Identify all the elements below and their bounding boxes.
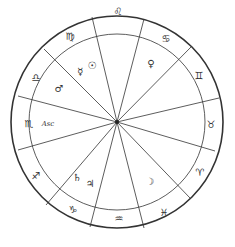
sign-leo-icon: ♌ bbox=[114, 6, 123, 17]
zodiac-wheel: ♌♋♊♉♈♓♒♑♐♏♎♍ ☉☿♂♀♄♃☽ Asc bbox=[0, 0, 235, 247]
planet-saturn-icon: ♄ bbox=[73, 172, 82, 183]
sign-gemini-icon: ♊ bbox=[195, 70, 204, 81]
sign-taurus-icon: ♉ bbox=[207, 119, 216, 130]
sign-sagittarius-icon: ♐ bbox=[32, 170, 41, 181]
planet-mercury-icon: ☿ bbox=[77, 66, 83, 77]
sign-aquarius-icon: ♒ bbox=[115, 213, 124, 224]
planet-venus-icon: ♀ bbox=[147, 58, 154, 69]
sign-pisces-icon: ♓ bbox=[160, 207, 169, 218]
house-divider bbox=[117, 122, 190, 198]
planet-moon-icon: ☽ bbox=[146, 176, 155, 187]
sign-libra-icon: ♎ bbox=[32, 72, 41, 83]
sign-scorpio-icon: ♏ bbox=[25, 118, 34, 129]
ascendant-label: Asc bbox=[41, 120, 55, 128]
center-hub bbox=[115, 120, 119, 124]
planet-jupiter-icon: ♃ bbox=[86, 178, 95, 189]
planet-sun-icon: ☉ bbox=[88, 60, 97, 71]
planet-mars-icon: ♂ bbox=[55, 83, 64, 94]
sign-capricorn-icon: ♑ bbox=[69, 204, 78, 215]
sign-virgo-icon: ♍ bbox=[66, 31, 75, 42]
house-divider bbox=[117, 122, 215, 151]
sign-aries-icon: ♈ bbox=[196, 167, 205, 178]
house-divider bbox=[117, 98, 219, 122]
sign-cancer-icon: ♋ bbox=[162, 33, 171, 44]
